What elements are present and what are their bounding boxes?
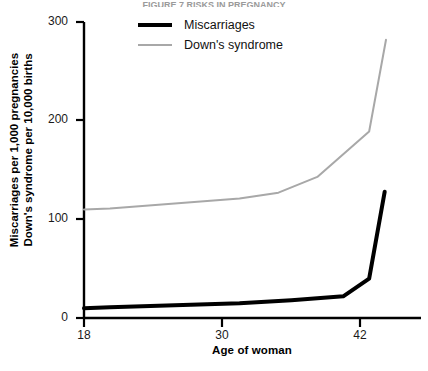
legend-label-miscarriages: Miscarriages — [174, 18, 255, 32]
line-swatch-icon — [136, 35, 174, 55]
x-axis-title: Age of woman — [84, 344, 420, 356]
y-axis-title-line2: Down's syndrome per 10,000 births — [22, 0, 36, 300]
line-swatch-icon — [136, 15, 174, 35]
legend-label-downs-syndrome: Down's syndrome — [174, 38, 283, 52]
y-axis-title: Miscarriages per 1,000 pregnancies Down'… — [8, 0, 35, 300]
chart-legend: Miscarriages Down's syndrome — [136, 15, 283, 55]
legend-item-miscarriages: Miscarriages — [136, 15, 283, 35]
legend-item-downs-syndrome: Down's syndrome — [136, 35, 283, 55]
series-line-downs-syndrome — [84, 40, 386, 210]
series-line-miscarriages — [84, 192, 385, 308]
y-axis-title-line1: Miscarriages per 1,000 pregnancies — [8, 53, 20, 247]
chart-figure: FIGURE 7 RISKS IN PREGNANCY 300 200 100 … — [0, 0, 428, 371]
x-tick-label-18: 18 — [64, 328, 104, 342]
y-tick-label-0: 0 — [28, 310, 68, 324]
x-tick-label-42: 42 — [340, 328, 380, 342]
x-tick-label-30: 30 — [202, 328, 242, 342]
x-axis-ticks — [84, 318, 360, 327]
